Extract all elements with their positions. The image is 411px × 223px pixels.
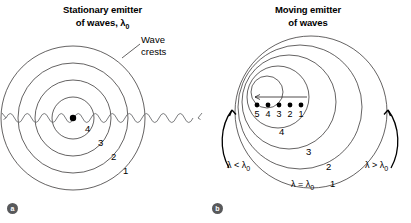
panel-a-ring-label-2: 2 xyxy=(111,152,116,162)
sine-wave-arrow-right xyxy=(198,113,202,120)
panel-b-ring-label-3: 3 xyxy=(306,147,311,157)
wave-crests-label-line2: crests xyxy=(141,46,166,58)
lambda-equal-sub: 0 xyxy=(310,184,314,191)
emitter-dot-1 xyxy=(299,103,304,108)
wave-crests-label-line1: Wave xyxy=(141,34,166,46)
sine-wave-ray-path xyxy=(6,114,193,123)
doppler-effect-figure: Stationary emitter of waves, λ0 Wave c xyxy=(0,0,411,223)
wave-crests-leader-line xyxy=(122,44,140,58)
wave-crests-label: Wave crests xyxy=(141,34,166,57)
moving-wave-crest-circle-3 xyxy=(242,55,336,149)
stationary-emitter-dot xyxy=(70,115,76,121)
lambda-greater-sub: 0 xyxy=(384,165,388,172)
lambda-equal-text: λ = λ xyxy=(291,179,310,189)
panel-stationary-emitter: Stationary emitter of waves, λ0 Wave c xyxy=(0,0,205,223)
lambda-less-label: λ < λ0 xyxy=(227,160,250,174)
emitter-dot-label-3: 3 xyxy=(274,110,284,119)
lambda-greater-text: λ > λ xyxy=(365,160,384,170)
panel-b-ring-label-1: 1 xyxy=(330,179,335,189)
panel-a-drawing xyxy=(0,0,205,223)
emitter-dot-3 xyxy=(277,103,282,108)
panel-b-badge: b xyxy=(212,203,223,214)
panel-a-ring-label-4: 4 xyxy=(85,124,90,134)
panel-b-ring-label-4: 4 xyxy=(279,127,284,137)
emitter-motion-arrow-group xyxy=(255,95,307,100)
emitter-position-dots-group xyxy=(255,103,304,108)
panel-b-ring-label-2: 2 xyxy=(326,162,331,172)
emitter-dot-label-2: 2 xyxy=(285,110,295,119)
emitter-dot-2 xyxy=(288,103,293,108)
lambda-greater-label: λ > λ0 xyxy=(365,160,388,174)
lambda-less-text: λ < λ xyxy=(227,160,246,170)
emitter-dot-label-5: 5 xyxy=(252,110,262,119)
emitter-dot-4 xyxy=(266,103,271,108)
emitter-dot-5 xyxy=(255,103,260,108)
sine-wave-arrow-left xyxy=(2,113,6,120)
lambda-equal-label: λ = λ0 xyxy=(291,179,314,193)
sine-wave-ray-group xyxy=(2,113,202,123)
emitter-dot-label-1: 1 xyxy=(296,110,306,119)
panel-a-ring-label-1: 1 xyxy=(123,166,128,176)
panel-a-ring-label-3: 3 xyxy=(98,138,103,148)
lambda-less-sub: 0 xyxy=(246,165,250,172)
right-observer-arrow-path xyxy=(388,110,398,168)
panel-a-badge: a xyxy=(7,203,18,214)
panel-moving-emitter: Moving emitter of waves xyxy=(205,0,411,223)
emitter-dot-label-4: 4 xyxy=(263,110,273,119)
